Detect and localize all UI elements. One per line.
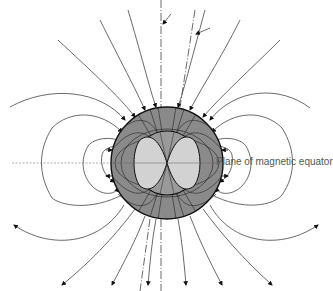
magnetic-field-diagram <box>0 0 333 291</box>
equator-label: Plane of magnetic equator <box>216 156 333 167</box>
field-lines-bottom <box>62 209 272 291</box>
magnetized-sphere <box>111 107 223 219</box>
field-lines-top <box>58 0 280 117</box>
field-lines-left <box>10 93 125 240</box>
